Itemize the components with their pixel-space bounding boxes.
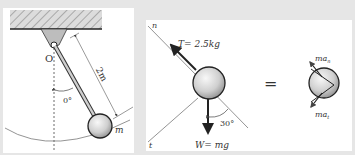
kinetic-mass [309,68,339,98]
free-body-mass [193,67,225,99]
n-axis-label: n [152,21,157,30]
tension-label: T= 2.5kg [178,39,220,49]
angle-30-label: 30° [220,119,234,128]
pivot-label: O [45,53,53,64]
ceiling-support [10,10,102,29]
diagram-canvas: = O 2m 0° m n T= 2.5kg 30° t W= mg man m… [0,0,355,155]
theta-label: 0° [63,96,72,105]
equals-sign: = [264,74,277,93]
mass-label: m [115,125,124,135]
weight-label: W= mg [195,140,229,150]
pendulum-mass [88,114,112,138]
